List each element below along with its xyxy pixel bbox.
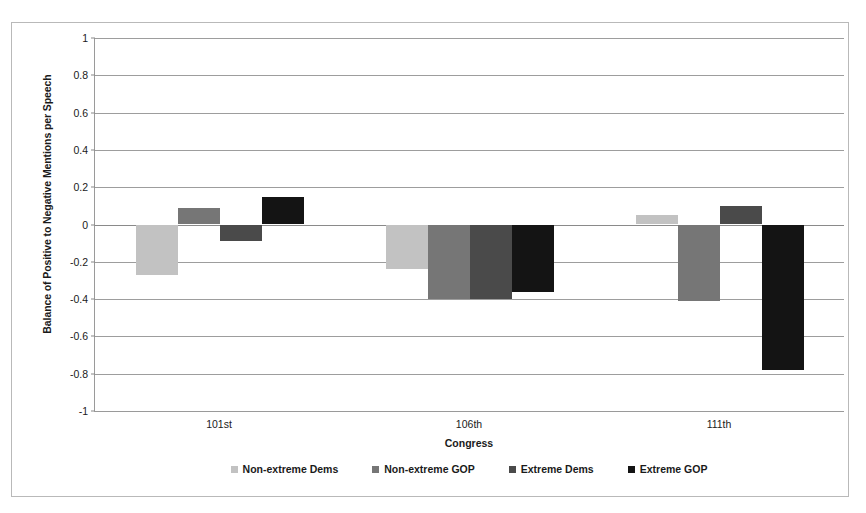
bar — [178, 208, 220, 225]
bar — [762, 225, 804, 370]
y-tick-mark — [91, 75, 95, 76]
bar — [136, 225, 178, 275]
x-axis-title: Congress — [94, 437, 844, 449]
legend-swatch-icon — [509, 466, 516, 473]
y-tick-label: -0.8 — [70, 368, 88, 380]
bar — [428, 225, 470, 300]
y-tick-label: -0.2 — [70, 256, 88, 268]
bar — [220, 225, 262, 242]
y-axis-title: Balance of Positive to Negative Mentions… — [41, 39, 53, 369]
chart-frame: Balance of Positive to Negative Mentions… — [11, 22, 849, 497]
y-tick-mark — [91, 336, 95, 337]
y-tick-label: 0 — [82, 219, 88, 231]
gridline — [95, 336, 844, 337]
y-tick-label: 1 — [82, 32, 88, 44]
y-tick-mark — [91, 224, 95, 225]
bar — [720, 206, 762, 225]
y-tick-label: 0.6 — [73, 107, 88, 119]
y-tick-mark — [91, 187, 95, 188]
chart-legend: Non-extreme DemsNon-extreme GOPExtreme D… — [94, 463, 844, 475]
y-tick-mark — [91, 373, 95, 374]
y-tick-label: 0.8 — [73, 69, 88, 81]
bar — [470, 225, 512, 300]
legend-item: Extreme GOP — [628, 463, 708, 475]
legend-label: Non-extreme Dems — [243, 463, 339, 475]
y-tick-mark — [91, 261, 95, 262]
legend-swatch-icon — [372, 466, 379, 473]
gridline — [95, 299, 844, 300]
bar — [636, 215, 678, 224]
gridline — [95, 187, 844, 188]
y-tick-label: -0.4 — [70, 293, 88, 305]
y-tick-mark — [91, 149, 95, 150]
x-axis-line — [94, 411, 844, 412]
legend-label: Non-extreme GOP — [384, 463, 474, 475]
legend-label: Extreme Dems — [521, 463, 594, 475]
y-tick-mark — [91, 299, 95, 300]
legend-label: Extreme GOP — [640, 463, 708, 475]
bar — [678, 225, 720, 301]
gridline — [95, 150, 844, 151]
y-tick-label: -0.6 — [70, 330, 88, 342]
legend-swatch-icon — [628, 466, 635, 473]
y-tick-mark — [91, 38, 95, 39]
x-tick-label: 101st — [206, 418, 232, 430]
legend-item: Non-extreme Dems — [231, 463, 339, 475]
x-tick-label: 106th — [456, 418, 482, 430]
y-tick-mark — [91, 112, 95, 113]
gridline — [95, 113, 844, 114]
y-tick-label: -1 — [79, 405, 88, 417]
y-tick-label: 0.4 — [73, 144, 88, 156]
gridline — [95, 374, 844, 375]
bar — [386, 225, 428, 270]
x-tick-label: 111th — [707, 418, 732, 430]
bar — [512, 225, 554, 292]
legend-item: Non-extreme GOP — [372, 463, 474, 475]
legend-item: Extreme Dems — [509, 463, 594, 475]
gridline — [95, 75, 844, 76]
gridline — [95, 38, 844, 39]
legend-swatch-icon — [231, 466, 238, 473]
bar — [262, 197, 304, 225]
y-tick-label: 0.2 — [73, 181, 88, 193]
plot-area: 10.80.60.40.20-0.2-0.4-0.6-0.8-1 — [94, 38, 844, 411]
